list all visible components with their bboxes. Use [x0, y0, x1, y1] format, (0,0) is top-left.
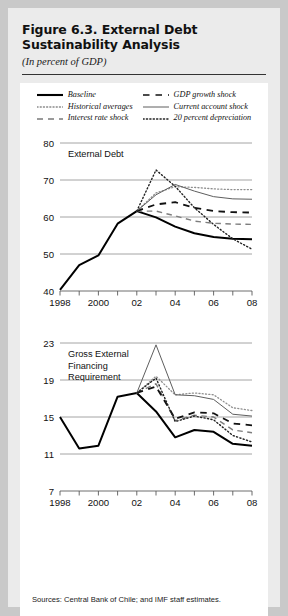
- legend-item-20-percent-depreciation: 20 percent depreciation: [143, 114, 252, 122]
- legend-item-historical-averages: Historical averages: [37, 103, 133, 111]
- legend-item-current-account-shock: Current account shock: [143, 103, 252, 111]
- page-title: Figure 6.3. External Debt Sustainability…: [22, 22, 266, 53]
- chart-external-debt: 40506070801998200002040608External Debt: [20, 131, 268, 331]
- figure-header: Figure 6.3. External Debt Sustainability…: [8, 8, 280, 67]
- y-axis-tick-label: 60: [43, 212, 54, 223]
- x-axis-tick-label: 02: [131, 297, 142, 308]
- series-line: [137, 376, 252, 410]
- legend-swatch-gdp-growth-shock: [143, 91, 169, 99]
- source-note: Sources: Central Bank of Chile; and IMF …: [32, 595, 258, 604]
- legend-label-20-percent-depreciation: 20 percent depreciation: [174, 114, 252, 122]
- panel-title: Gross External: [68, 349, 129, 359]
- x-axis-tick-label: 04: [170, 497, 181, 508]
- legend-label-baseline: Baseline: [68, 91, 96, 99]
- x-axis-tick-label: 08: [247, 297, 258, 308]
- figure-page: Figure 6.3. External Debt Sustainability…: [8, 8, 280, 607]
- y-axis-tick-label: 23: [43, 338, 54, 349]
- series-line: [137, 386, 252, 425]
- y-axis-tick-label: 40: [43, 286, 54, 297]
- x-axis-tick-label: 02: [131, 497, 142, 508]
- x-axis-tick-label: 2000: [88, 297, 109, 308]
- legend-swatch-current-account-shock: [143, 103, 169, 111]
- x-axis-tick-label: 08: [247, 497, 258, 508]
- x-axis-tick-label: 04: [170, 297, 181, 308]
- x-axis-tick-label: 1998: [49, 497, 70, 508]
- y-axis-tick-label: 80: [43, 138, 54, 149]
- y-axis-tick-label: 70: [43, 175, 54, 186]
- chart-legend: Baseline Historical averages Interest ra…: [20, 91, 268, 123]
- y-axis-tick-label: 50: [43, 249, 54, 260]
- header-divider: [22, 74, 266, 76]
- figure-subtitle: (In percent of GDP): [22, 56, 266, 67]
- legend-column-right: GDP growth shock Current account shock 2…: [143, 91, 252, 123]
- legend-swatch-interest-rate-shock: [37, 115, 63, 123]
- legend-label-current-account-shock: Current account shock: [174, 103, 248, 111]
- legend-label-gdp-growth-shock: GDP growth shock: [174, 91, 236, 99]
- y-axis-tick-label: 15: [43, 412, 54, 423]
- legend-column-left: Baseline Historical averages Interest ra…: [37, 91, 133, 123]
- panel-title: Requirement: [68, 372, 121, 382]
- x-axis-tick-label: 06: [208, 297, 219, 308]
- x-axis-tick-label: 1998: [49, 297, 70, 308]
- chart-gross-external-financing-requirement: 7111519231998200002040608Gross ExternalF…: [20, 331, 268, 531]
- chart-card: Baseline Historical averages Interest ra…: [20, 83, 268, 616]
- legend-label-interest-rate-shock: Interest rate shock: [68, 114, 129, 122]
- legend-swatch-20-percent-depreciation: [143, 115, 169, 123]
- y-axis-tick-label: 19: [43, 375, 54, 386]
- y-axis-tick-label: 7: [49, 486, 54, 497]
- legend-item-interest-rate-shock: Interest rate shock: [37, 114, 133, 122]
- legend-swatch-baseline: [37, 91, 63, 99]
- panel-title: Financing: [68, 361, 108, 371]
- series-line: [60, 211, 252, 290]
- y-axis-tick-label: 11: [44, 449, 54, 460]
- series-line: [137, 170, 252, 249]
- x-axis-tick-label: 2000: [88, 497, 109, 508]
- legend-item-gdp-growth-shock: GDP growth shock: [143, 91, 252, 99]
- legend-item-baseline: Baseline: [37, 91, 133, 99]
- x-axis-tick-label: 06: [208, 497, 219, 508]
- panel-title: External Debt: [68, 149, 124, 159]
- legend-swatch-historical-averages: [37, 103, 63, 111]
- legend-label-historical-averages: Historical averages: [68, 103, 133, 111]
